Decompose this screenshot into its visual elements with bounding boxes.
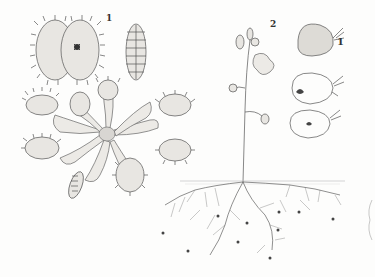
partial-figure-right-edge — [369, 200, 372, 240]
figure-label-2: 2 — [270, 19, 276, 29]
bladderwort-roots-with-bladders — [162, 182, 342, 260]
figure-label-1: 1 — [106, 13, 112, 23]
open-trap-with-insect — [30, 15, 105, 85]
water-surface — [180, 181, 345, 184]
bladder-detail-label: 1 — [337, 36, 344, 47]
bladder-section — [290, 110, 341, 138]
bladderwort-flower-stem — [229, 28, 274, 182]
closed-trap-side-view — [126, 24, 146, 80]
flytrap-rosette — [21, 76, 195, 200]
botanical-plate: 1 2 1 — [0, 0, 375, 277]
bladder-section-with-prey — [292, 73, 344, 104]
illustration — [0, 0, 375, 277]
